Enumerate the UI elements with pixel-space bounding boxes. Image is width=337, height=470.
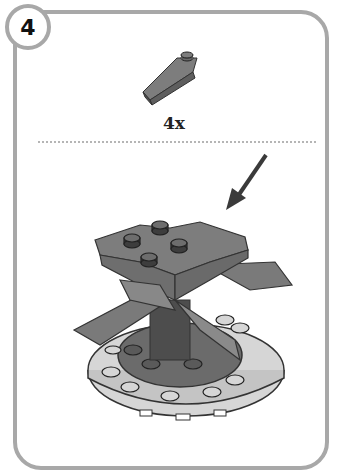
assembled-model-icon <box>0 0 337 452</box>
